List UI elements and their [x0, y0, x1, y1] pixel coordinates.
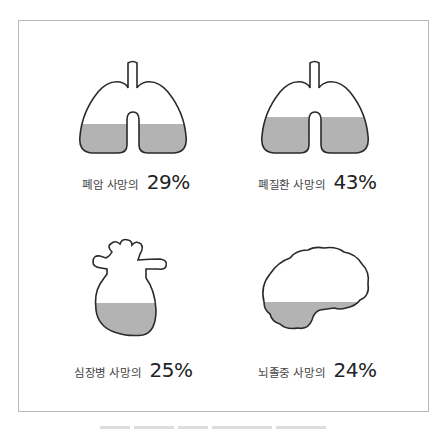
label-desc: 심장병 사망의: [74, 364, 142, 380]
label-lung-cancer: 폐암 사망의 29%: [82, 170, 190, 194]
label-stroke: 뇌졸중 사망의 24%: [258, 358, 377, 382]
label-percent: 25%: [150, 358, 193, 382]
brain-icon: [258, 242, 374, 334]
label-lung-disease: 폐질환 사망의 43%: [258, 170, 377, 194]
label-desc: 폐질환 사망의: [258, 176, 326, 192]
label-desc: 뇌졸중 사망의: [258, 364, 326, 380]
label-desc: 폐암 사망의: [82, 176, 139, 192]
lungs-icon: [258, 60, 372, 156]
lungs-icon: [76, 60, 190, 156]
label-percent: 24%: [334, 358, 377, 382]
cropped-caption: [100, 426, 350, 434]
heart-icon: [88, 238, 174, 338]
label-percent: 43%: [334, 170, 377, 194]
label-heart-disease: 심장병 사망의 25%: [74, 358, 193, 382]
label-percent: 29%: [147, 170, 190, 194]
